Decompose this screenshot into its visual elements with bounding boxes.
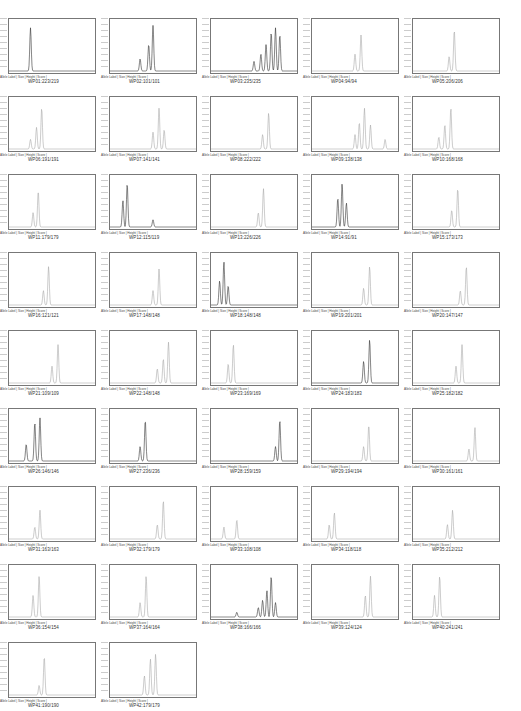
electropherogram-panel: Allele Label | Size | Height | Score | W…	[303, 404, 399, 480]
y-axis	[303, 564, 310, 618]
plot-area	[109, 408, 197, 464]
electropherogram-panel: Allele Label | Size | Height | Score | W…	[303, 248, 399, 324]
y-axis	[303, 486, 310, 540]
electropherogram-panel: Allele Label | Size | Height | Score | W…	[0, 404, 96, 480]
electropherogram-panel: Allele Label | Size | Height | Score | W…	[404, 248, 500, 324]
sample-label: WP15:173/173	[432, 235, 463, 240]
plot-area	[210, 18, 298, 74]
trace-line	[9, 565, 95, 619]
trace-line	[9, 409, 95, 463]
plot-area	[311, 96, 399, 152]
plot-area	[412, 174, 500, 230]
sample-label: WP06:191/191	[28, 157, 59, 162]
sample-label: WP39:124/124	[331, 625, 362, 630]
plot-area	[311, 564, 399, 620]
plot-area	[109, 18, 197, 74]
plot-area	[8, 642, 96, 698]
y-axis	[202, 18, 209, 72]
electropherogram-panel: Allele Label | Size | Height | Score | W…	[404, 92, 500, 168]
electropherogram-panel: Allele Label | Size | Height | Score | W…	[404, 404, 500, 480]
sample-label: WP09:138/138	[331, 157, 362, 162]
electropherogram-panel: Allele Label | Size | Height | Score | W…	[202, 404, 298, 480]
plot-area	[109, 564, 197, 620]
sample-label: WP42:179/179	[129, 703, 160, 708]
sample-label: WP28:159/159	[230, 469, 261, 474]
electropherogram-panel: Allele Label | Size | Height | Score | W…	[101, 14, 197, 90]
electropherogram-panel: Allele Label | Size | Height | Score | W…	[101, 482, 197, 558]
plot-area	[412, 252, 500, 308]
plot-area	[311, 408, 399, 464]
trace-line	[312, 253, 398, 307]
plot-area	[210, 408, 298, 464]
y-axis	[202, 330, 209, 384]
trace-line	[312, 487, 398, 541]
sample-label: WP19:201/201	[331, 313, 362, 318]
y-axis	[303, 252, 310, 306]
plot-area	[8, 330, 96, 386]
y-axis	[202, 96, 209, 150]
y-axis	[303, 408, 310, 462]
plot-area	[311, 18, 399, 74]
trace-line	[413, 331, 499, 385]
plot-area	[412, 96, 500, 152]
sample-label: WP38:166/166	[230, 625, 261, 630]
y-axis	[202, 252, 209, 306]
y-axis	[101, 96, 108, 150]
sample-label: WP35:212/212	[432, 547, 463, 552]
plot-area	[109, 96, 197, 152]
electropherogram-panel: Allele Label | Size | Height | Score | W…	[404, 170, 500, 246]
trace-line	[312, 409, 398, 463]
sample-label: WP20:147/147	[432, 313, 463, 318]
sample-label: WP01:223/219	[28, 79, 59, 84]
sample-label: WP30:161/161	[432, 469, 463, 474]
trace-line	[312, 331, 398, 385]
plot-area	[311, 330, 399, 386]
y-axis	[404, 486, 411, 540]
trace-line	[211, 409, 297, 463]
electropherogram-panel: Allele Label | Size | Height | Score | W…	[101, 638, 197, 711]
trace-line	[110, 253, 196, 307]
y-axis	[0, 252, 7, 306]
sample-label: WP02:101/101	[129, 79, 160, 84]
trace-line	[9, 253, 95, 307]
electropherogram-panel: Allele Label | Size | Height | Score | W…	[101, 92, 197, 168]
sample-label: WP21:109/109	[28, 391, 59, 396]
trace-line	[312, 19, 398, 73]
plot-area	[8, 18, 96, 74]
electropherogram-panel: Allele Label | Size | Height | Score | W…	[303, 560, 399, 636]
plot-area	[8, 174, 96, 230]
trace-line	[413, 253, 499, 307]
plot-area	[8, 252, 96, 308]
trace-line	[9, 487, 95, 541]
y-axis	[0, 564, 7, 618]
plot-area	[109, 642, 197, 698]
sample-label: WP29:194/194	[331, 469, 362, 474]
electropherogram-panel: Allele Label | Size | Height | Score | W…	[0, 326, 96, 402]
plot-area	[412, 330, 500, 386]
sample-label: WP04:94/94	[331, 79, 357, 84]
electropherogram-panel: Allele Label | Size | Height | Score | W…	[404, 560, 500, 636]
y-axis	[404, 18, 411, 72]
trace-line	[211, 331, 297, 385]
electropherogram-panel: Allele Label | Size | Height | Score | W…	[0, 482, 96, 558]
trace-line	[9, 175, 95, 229]
trace-line	[110, 175, 196, 229]
trace-line	[413, 565, 499, 619]
y-axis	[404, 252, 411, 306]
plot-area	[109, 330, 197, 386]
y-axis	[0, 96, 7, 150]
trace-line	[211, 487, 297, 541]
trace-line	[312, 565, 398, 619]
sample-label: WP32:179/179	[129, 547, 160, 552]
y-axis	[303, 18, 310, 72]
electropherogram-panel: Allele Label | Size | Height | Score | W…	[0, 170, 96, 246]
electropherogram-panel: Allele Label | Size | Height | Score | W…	[101, 404, 197, 480]
plot-area	[311, 252, 399, 308]
sample-label: WP25:182/182	[432, 391, 463, 396]
trace-line	[110, 97, 196, 151]
electropherogram-panel: Allele Label | Size | Height | Score | W…	[404, 14, 500, 90]
trace-line	[110, 643, 196, 697]
sample-label: WP03:235/235	[230, 79, 261, 84]
electropherogram-panel: Allele Label | Size | Height | Score | W…	[202, 482, 298, 558]
y-axis	[0, 486, 7, 540]
